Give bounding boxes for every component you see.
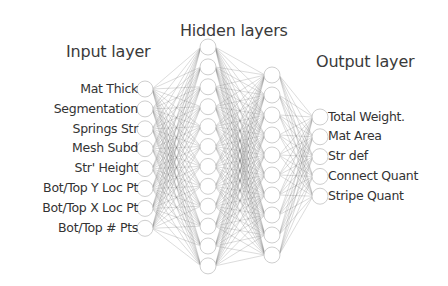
hidden1-node (200, 218, 216, 234)
input-label-bot-top-x-loc-pt: Bot/Top X Loc Pt (42, 200, 138, 215)
input-node (137, 181, 153, 197)
hidden1-node (200, 79, 216, 95)
connection-edges (152, 47, 313, 266)
hidden2-node (264, 127, 280, 143)
hidden2-node (264, 247, 280, 263)
input-label-bot-top-num-pts: Bot/Top # Pts (58, 220, 138, 235)
hidden2-node (264, 87, 280, 103)
hidden2-node (264, 227, 280, 243)
output-node (312, 109, 328, 125)
input-node (137, 200, 153, 216)
input-label-bot-top-y-loc-pt: Bot/Top Y Loc Pt (43, 180, 138, 195)
hidden2-node (264, 167, 280, 183)
hidden1-node (200, 158, 216, 174)
input-node (137, 101, 153, 117)
hidden1-node (200, 238, 216, 254)
output-label-connect-quant: Connect Quant (328, 168, 418, 183)
output-labels: Total Weight. Mat Area Str def Connect Q… (328, 0, 448, 286)
hidden1-node (200, 139, 216, 155)
hidden1-node (200, 99, 216, 115)
output-node (312, 129, 328, 145)
input-node (137, 220, 153, 236)
input-label-mat-thick: Mat Thick (80, 81, 138, 96)
hidden1-node (200, 59, 216, 75)
input-label-mesh-subd: Mesh Subd (72, 140, 138, 155)
input-label-str-height: Str' Height (75, 160, 138, 175)
input-node (137, 161, 153, 177)
hidden1-node (200, 39, 216, 55)
hidden1-node (200, 258, 216, 274)
input-node (137, 141, 153, 157)
input-node (137, 81, 153, 97)
output-label-stripe-quant: Stripe Quant (328, 188, 404, 203)
hidden2-node (264, 187, 280, 203)
hidden2-node (264, 107, 280, 123)
output-node (312, 149, 328, 165)
hidden2-node (264, 67, 280, 83)
hidden2-node (264, 207, 280, 223)
hidden-layers-title: Hidden layers (180, 21, 288, 40)
neural-network-diagram: Input layer Hidden layers Output layer M… (0, 0, 448, 286)
hidden1-node (200, 119, 216, 135)
output-label-total-weight: Total Weight. (328, 109, 405, 124)
input-label-springs-str: Springs Str (73, 121, 139, 136)
hidden1-node (200, 198, 216, 214)
input-labels: Mat Thick Segmentation Springs Str Mesh … (0, 0, 138, 286)
hidden2-node (264, 147, 280, 163)
input-node (137, 121, 153, 137)
output-label-mat-area: Mat Area (328, 128, 382, 143)
output-node (312, 188, 328, 204)
output-label-str-def: Str def (328, 148, 368, 163)
hidden1-node (200, 178, 216, 194)
input-label-segmentation: Segmentation (54, 101, 138, 116)
output-node (312, 168, 328, 184)
